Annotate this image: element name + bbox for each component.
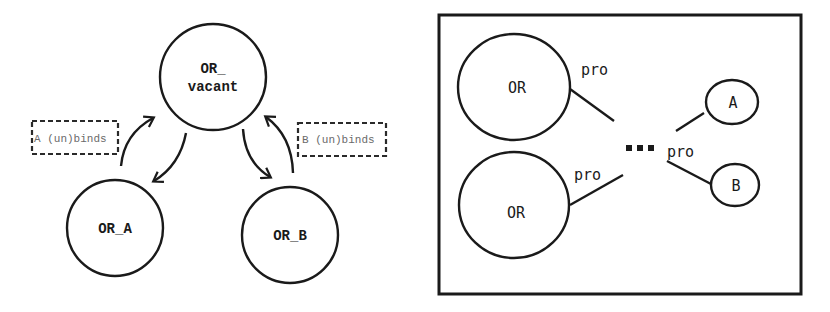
node-or-vacant-circle <box>160 24 266 130</box>
arrow-vacant-to-or-b <box>243 129 270 177</box>
node-or-vacant-label-line2: vacant <box>188 79 238 95</box>
pro-line-to-a <box>676 113 704 131</box>
annotation-a-label: A (un)binds <box>34 133 107 145</box>
node-or-vacant-label-line1: OR_ <box>200 61 226 77</box>
annotation-b-label: B (un)binds <box>302 134 375 146</box>
arrow-vacant-to-or-a <box>154 133 186 181</box>
figure-canvas: OR_ vacant OR_A OR_B A (un)binds B (un)b… <box>0 0 830 312</box>
node-a-label: A <box>728 94 737 112</box>
node-or-b-label: OR_B <box>273 228 307 244</box>
annotation-b-unbinds: B (un)binds <box>298 123 386 156</box>
node-b: B <box>711 164 759 206</box>
pro-line-to-b <box>667 161 711 184</box>
node-a: A <box>706 80 758 124</box>
pro-label-bottom: pro <box>574 166 601 184</box>
ellipsis-icon <box>626 145 654 151</box>
annotation-a-unbinds: A (un)binds <box>32 121 118 154</box>
left-state-diagram: OR_ vacant OR_A OR_B A (un)binds B (un)b… <box>32 24 386 283</box>
node-or-a-label: OR_A <box>98 221 132 237</box>
pro-label-middle: pro <box>667 143 694 161</box>
arrow-or-b-to-vacant <box>266 117 293 173</box>
node-or-bottom: OR <box>459 152 569 258</box>
node-b-label: B <box>731 177 740 195</box>
arrow-or-a-to-vacant <box>121 118 153 166</box>
node-or-vacant: OR_ vacant <box>160 24 266 130</box>
node-or-b: OR_B <box>242 187 338 283</box>
right-binding-diagram: OR OR A B pro pro pro <box>439 15 801 294</box>
node-or-bottom-label: OR <box>507 204 526 222</box>
node-or-top: OR <box>458 34 570 140</box>
node-or-top-label: OR <box>508 79 527 97</box>
node-or-a: OR_A <box>67 180 163 276</box>
pro-line-top <box>570 89 614 121</box>
pro-label-top: pro <box>581 61 608 79</box>
